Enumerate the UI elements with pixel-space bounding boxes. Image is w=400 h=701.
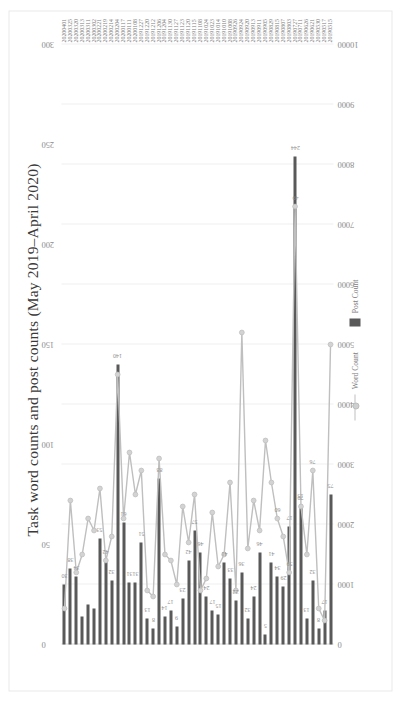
line-marker <box>280 534 285 539</box>
data-label: 76 <box>309 458 315 464</box>
category-label: 20191115 <box>191 19 197 42</box>
data-label: 22 <box>232 588 238 594</box>
category-label: 20190621 <box>309 18 315 42</box>
line-marker <box>215 564 220 569</box>
category-label: 20191123 <box>179 19 185 42</box>
data-label: 8 <box>317 616 320 622</box>
line-marker <box>162 552 167 557</box>
axis-tick-word-count: 0 <box>337 640 341 649</box>
line-marker <box>103 558 108 563</box>
category-label: 20190517 <box>321 18 327 42</box>
plot-area: 7517832761315702444917592960344154624323… <box>61 44 333 644</box>
chart-figure: Task word counts and post counts (May 20… <box>8 10 392 691</box>
data-label: 15 <box>215 602 221 608</box>
data-label: 23 <box>179 586 185 592</box>
data-label: 29 <box>280 574 286 580</box>
data-label: 46 <box>197 540 203 546</box>
line-marker <box>67 498 72 503</box>
axis-tick-post-count: 250 <box>41 140 54 149</box>
data-label: 41 <box>268 550 274 556</box>
line-marker <box>115 372 120 377</box>
line-marker <box>62 606 67 611</box>
data-label: 24 <box>250 584 256 590</box>
data-label: 140 <box>113 352 122 358</box>
category-label: 20190626 <box>303 18 309 42</box>
line-marker <box>85 516 90 521</box>
line-marker <box>209 510 214 515</box>
axis-tick-post-count: 200 <box>41 240 54 249</box>
data-label: 32 <box>309 568 315 574</box>
category-label: 20191206 <box>156 18 162 42</box>
line-marker <box>328 342 333 347</box>
category-label: 20190807 <box>280 18 286 42</box>
data-label: 75 <box>327 482 333 488</box>
line-marker <box>203 576 208 581</box>
chart-legend: Word Count Post Count <box>349 9 360 690</box>
category-label: 20191220 <box>144 18 150 42</box>
category-label: 20191212 <box>150 18 156 42</box>
data-label: 17 <box>286 514 292 520</box>
data-label: 41 <box>221 550 227 556</box>
line-marker <box>156 456 161 461</box>
line-marker <box>138 468 143 473</box>
data-label: 46 <box>256 540 262 546</box>
data-label: 42 <box>102 548 108 554</box>
category-label: 20191227 <box>138 18 144 42</box>
data-label: 8 <box>151 616 154 622</box>
category-label: 20191014 <box>215 18 221 42</box>
data-label: 42 <box>185 548 191 554</box>
data-label: 60 <box>274 506 280 512</box>
line-marker <box>286 570 291 575</box>
top-axis-ticks: 050100150200250300 <box>41 44 59 644</box>
line-marker <box>257 528 262 533</box>
data-label: 31 <box>126 570 132 576</box>
line-marker <box>239 330 244 335</box>
line-marker <box>298 504 303 509</box>
category-label: 20191008 <box>227 18 233 42</box>
data-label: 34 <box>73 564 79 570</box>
data-label: 53 <box>96 526 102 532</box>
category-label: 20200204 <box>114 18 120 42</box>
data-label: 34 <box>274 564 280 570</box>
data-label: 5 <box>264 622 267 628</box>
category-label: 20200325 <box>67 18 73 42</box>
category-label: 20190829 <box>268 18 274 42</box>
line-marker <box>263 438 268 443</box>
line-marker <box>97 486 102 491</box>
data-label: 31 <box>132 570 138 576</box>
line-marker <box>304 552 309 557</box>
line-marker <box>316 606 321 611</box>
legend-item-word-count: Word Count <box>350 352 359 420</box>
data-label: 49 <box>292 194 298 200</box>
category-label: 20191023 <box>209 18 215 42</box>
category-label: 20190711 <box>298 19 304 42</box>
category-label: 20200108 <box>132 18 138 42</box>
category-label: 20191010 <box>221 18 227 42</box>
category-label: 20200311 <box>85 19 91 42</box>
category-label: 20190920 <box>244 18 250 42</box>
data-label: 13 <box>303 606 309 612</box>
data-label: 17 <box>167 598 173 604</box>
category-label: 20190515 <box>327 18 333 42</box>
bar-marker-icon <box>349 318 360 326</box>
data-label: 9 <box>175 614 178 620</box>
line-marker <box>292 204 297 209</box>
line-marker <box>109 534 114 539</box>
category-label: 20190924 <box>238 18 244 42</box>
legend-item-post-count: Post Count <box>349 279 360 326</box>
data-label: 59 <box>286 560 292 566</box>
data-label: 244 <box>290 144 299 150</box>
axis-tick-post-count: 0 <box>41 640 45 649</box>
category-axis-labels: 2019051520190517201905302019062120190626… <box>61 4 333 44</box>
data-label: 24 <box>203 584 209 590</box>
line-marker <box>127 450 132 455</box>
data-label: 17 <box>321 598 327 604</box>
line-marker <box>251 498 256 503</box>
category-label: 20191204 <box>162 18 168 42</box>
line-marker <box>91 528 96 533</box>
category-label: 20190815 <box>274 18 280 42</box>
line-marker <box>180 504 185 509</box>
category-label: 20190926 <box>232 18 238 42</box>
category-label: 20200221 <box>96 18 102 42</box>
category-label: 20190803 <box>286 18 292 42</box>
